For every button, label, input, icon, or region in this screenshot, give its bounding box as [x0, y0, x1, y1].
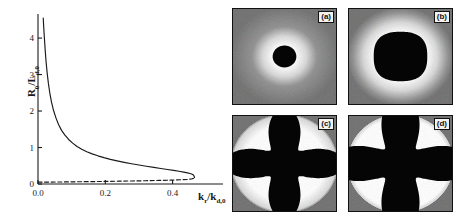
- y-tick-label: 3: [22, 70, 34, 80]
- x-axis-label-sub2: d,0: [216, 197, 225, 205]
- x-tick-label: 0.0: [32, 188, 43, 198]
- bifurcation-plot: R0/Ld,0 kr/kd,0 0.00.20.401234: [0, 0, 228, 215]
- y-tick-label: 1: [22, 143, 34, 153]
- figure-root: R0/Ld,0 kr/kd,0 0.00.20.401234 (a)(b)(c)…: [0, 0, 457, 215]
- y-axis-label-base: R: [25, 89, 37, 97]
- curve-upper-branch: [43, 18, 194, 178]
- simulation-panel-d: (d): [348, 115, 453, 212]
- panel-domain-circle: [273, 46, 297, 68]
- y-tick-label: 2: [22, 106, 34, 116]
- panel-field-c: [233, 116, 336, 211]
- y-tick-label: 0: [22, 179, 34, 189]
- panel-label-c: (c): [318, 118, 334, 130]
- panel-field-d: [349, 116, 452, 211]
- panel-label-b: (b): [434, 11, 450, 23]
- panel-domain-rounded-diamond: [374, 32, 428, 81]
- x-tick-label: 0.2: [100, 188, 111, 198]
- simulation-panel-b: (b): [348, 8, 453, 105]
- panel-label-a: (a): [318, 11, 334, 23]
- y-tick-label: 4: [22, 33, 34, 43]
- simulation-panel-a: (a): [232, 8, 337, 105]
- simulation-panel-grid: (a)(b)(c)(d): [232, 8, 454, 210]
- curve-lower-branch: [38, 178, 194, 183]
- x-axis-label: kr/kd,0: [198, 190, 226, 205]
- x-tick-label: 0.4: [167, 188, 178, 198]
- panel-field-b: [349, 9, 452, 104]
- panel-field-a: [233, 9, 336, 104]
- y-axis-label-sub1: 0: [33, 86, 41, 90]
- panel-label-d: (d): [434, 118, 450, 130]
- simulation-panel-c: (c): [232, 115, 337, 212]
